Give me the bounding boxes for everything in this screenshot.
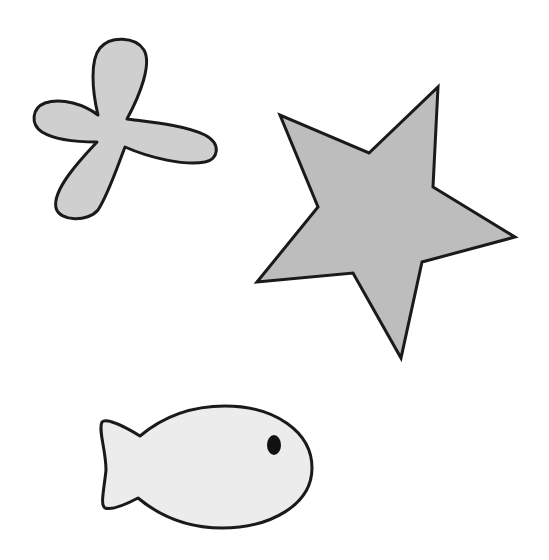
- flower-shape: [34, 39, 216, 219]
- fish-eye: [267, 435, 281, 455]
- star-shape: [257, 87, 515, 358]
- shapes-canvas: [0, 0, 549, 560]
- fish-shape: [101, 406, 312, 528]
- fish-body: [101, 406, 312, 528]
